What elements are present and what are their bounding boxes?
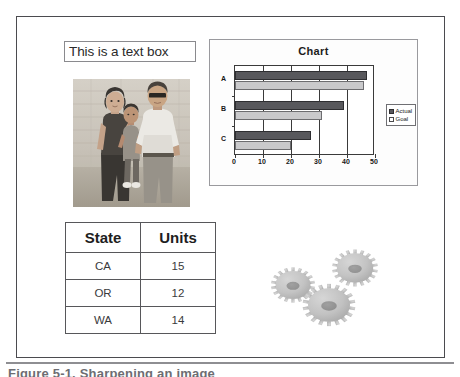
chart-cat-label-a: A [221, 75, 226, 82]
data-table[interactable]: State Units CA 15 OR 12 WA 14 [65, 222, 216, 334]
text-box-label: This is a text box [69, 44, 169, 59]
legend-swatch-goal-icon [389, 117, 394, 122]
gears-icon [249, 235, 401, 340]
family-photo [73, 79, 190, 207]
bar-actual-c [235, 131, 311, 140]
legend-swatch-actual-icon [389, 109, 394, 114]
gear-left [271, 267, 315, 302]
figure-caption: Figure 5-1. Sharpening an image [8, 366, 448, 377]
xtick-label-30: 30 [314, 158, 322, 165]
table-header-row: State Units [66, 223, 216, 253]
chart-cat-label-b: B [221, 105, 226, 112]
table-row[interactable]: CA 15 [66, 253, 216, 280]
xtick-10 [263, 154, 264, 158]
xtick-30 [319, 154, 320, 158]
bar-actual-a [235, 71, 367, 80]
xtick-label-20: 20 [286, 158, 294, 165]
table-cell-units: 14 [141, 307, 216, 334]
bar-actual-b [235, 101, 344, 110]
gears-clipart [249, 235, 401, 340]
table-header-units: Units [141, 223, 216, 253]
bar-goal-b [235, 111, 322, 120]
table-row[interactable]: WA 14 [66, 307, 216, 334]
xtick-0 [235, 154, 236, 158]
caption-divider [6, 362, 454, 364]
xtick-label-50: 50 [370, 158, 378, 165]
legend-label-actual: Actual [396, 107, 413, 115]
xtick-50 [375, 154, 376, 158]
chart-title: Chart [210, 45, 417, 57]
xtick-label-0: 0 [232, 158, 236, 165]
table-cell-state: WA [66, 307, 141, 334]
chart-plot-area: A B C [234, 65, 374, 155]
xtick-label-10: 10 [258, 158, 266, 165]
legend-entry-goal: Goal [389, 115, 412, 123]
xtick-40 [347, 154, 348, 158]
table-cell-units: 15 [141, 253, 216, 280]
text-box[interactable]: This is a text box [64, 41, 196, 62]
chart-legend[interactable]: Actual Goal [386, 104, 416, 126]
family-photo-image [73, 79, 190, 207]
legend-entry-actual: Actual [389, 107, 412, 115]
gear-front-center [303, 284, 356, 326]
table-cell-state: OR [66, 280, 141, 307]
xtick-20 [291, 154, 292, 158]
bar-goal-a [235, 81, 364, 90]
chart-cat-label-c: C [221, 135, 226, 142]
chart-group-c: C [235, 126, 373, 156]
legend-label-goal: Goal [396, 115, 409, 123]
table-cell-units: 12 [141, 280, 216, 307]
table-row[interactable]: OR 12 [66, 280, 216, 307]
slide-frame: This is a text box [16, 16, 445, 358]
bar-goal-c [235, 141, 291, 150]
table-header-state: State [66, 223, 141, 253]
gear-top-right [332, 250, 378, 287]
chart-group-a: A [235, 66, 373, 96]
bar-chart[interactable]: Chart A B C [209, 39, 418, 186]
xtick-label-40: 40 [342, 158, 350, 165]
chart-group-b: B [235, 96, 373, 126]
table-cell-state: CA [66, 253, 141, 280]
